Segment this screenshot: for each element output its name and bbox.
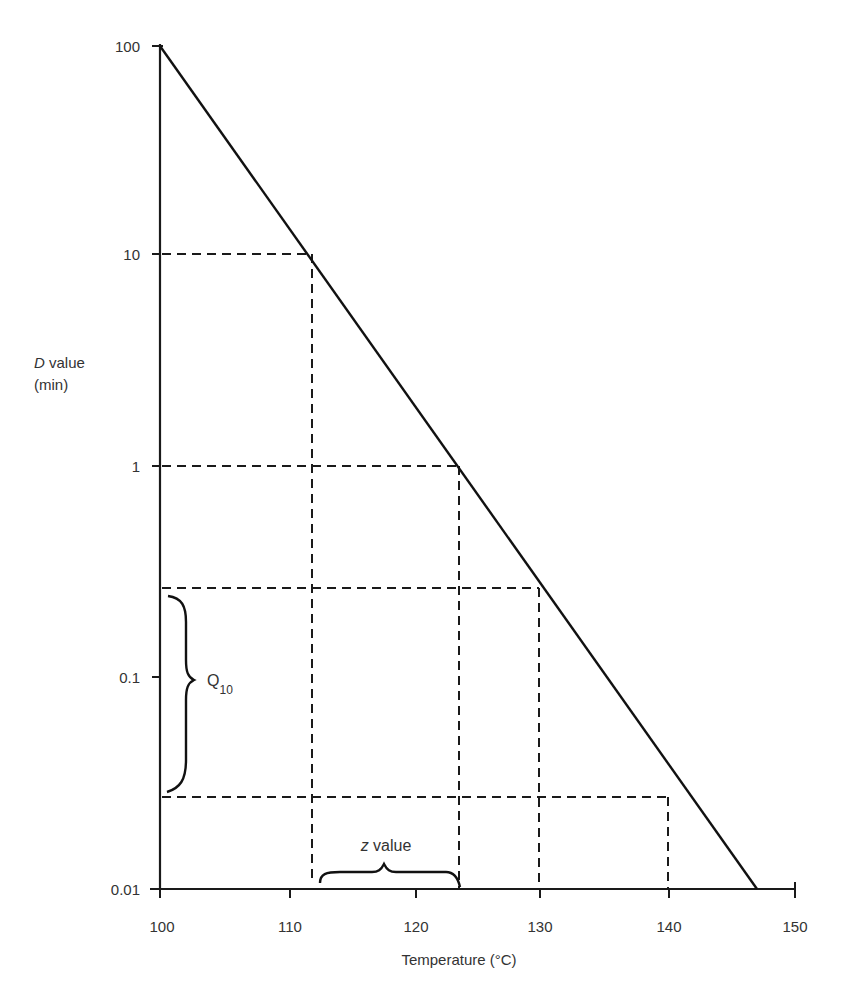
d-value-chart: 100 10 1 0.1 0.01 100 110 120 130 140 15… — [0, 0, 846, 995]
z-value-italic: z — [360, 837, 369, 854]
y-tick-label: 0.01 — [111, 881, 140, 898]
reference-lines — [162, 254, 668, 888]
q10-label: Q10 — [207, 672, 233, 697]
q10-subscript: 10 — [219, 683, 233, 697]
y-axis-unit: (min) — [34, 376, 68, 393]
axes — [150, 44, 796, 890]
q10-brace — [167, 596, 194, 792]
x-tick-label: 140 — [656, 918, 681, 935]
x-tick-label: 150 — [782, 918, 807, 935]
y-tick-label: 1 — [132, 458, 140, 475]
z-value-brace — [320, 864, 460, 887]
y-axis-title: D value — [34, 354, 85, 371]
y-tick-label: 100 — [115, 38, 140, 55]
x-tick-label: 130 — [527, 918, 552, 935]
x-tick-label: 100 — [149, 918, 174, 935]
x-tick-label: 120 — [403, 918, 428, 935]
y-axis-title-italic: D — [34, 354, 45, 371]
z-value-label: z value — [360, 837, 412, 854]
x-axis-title: Temperature (°C) — [401, 951, 516, 968]
y-tick-label: 0.1 — [119, 669, 140, 686]
q10-main: Q — [207, 672, 219, 689]
y-axis-title-rest: value — [45, 354, 85, 371]
x-tick-labels: 100 110 120 130 140 150 — [149, 918, 807, 935]
y-tick-label: 10 — [123, 246, 140, 263]
y-tick-labels: 100 10 1 0.1 0.01 — [111, 38, 140, 898]
x-tick-label: 110 — [278, 918, 302, 935]
z-value-rest: value — [369, 837, 412, 854]
d-value-line — [160, 46, 757, 889]
